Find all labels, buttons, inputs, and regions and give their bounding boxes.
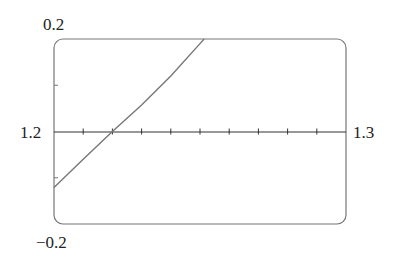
x-min-label: 1.2 [20,124,41,141]
y-min-label: −0.2 [36,234,67,251]
data-curve [54,39,204,188]
y-max-label: 0.2 [43,16,64,33]
x-max-label: 1.3 [353,124,374,141]
plot-area [0,0,399,257]
